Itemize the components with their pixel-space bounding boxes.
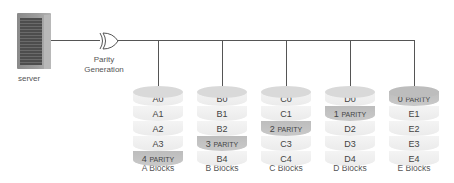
data-block: E2 (389, 121, 439, 136)
data-block: B4 (197, 151, 247, 166)
data-block: A2 (133, 121, 183, 136)
parity-number: 2 (270, 124, 275, 134)
drop-line-e (414, 40, 415, 91)
parity-number: 1 (334, 109, 339, 119)
data-block: B1 (197, 106, 247, 121)
drop-line-d (350, 40, 351, 91)
parity-label-line2: Generation (82, 65, 126, 75)
parity-tag: PARITY (149, 156, 174, 163)
drop-line-c (286, 40, 287, 91)
data-block: D4 (325, 151, 375, 166)
server-label: server (18, 74, 40, 83)
parity-label-line1: Parity (82, 55, 126, 65)
parity-block: 3 PARITY (197, 136, 247, 151)
parity-tag: PARITY (341, 111, 366, 118)
data-block: E3 (389, 136, 439, 151)
data-block: D2 (325, 121, 375, 136)
data-block: C3 (261, 136, 311, 151)
parity-tag: PARITY (277, 126, 302, 133)
disk-top (133, 86, 183, 98)
parity-number: 3 (206, 139, 211, 149)
parity-block: 1 PARITY (325, 106, 375, 121)
server-side-panel (44, 15, 51, 69)
parity-block: 2 PARITY (261, 121, 311, 136)
data-block: E1 (389, 106, 439, 121)
data-block: D3 (325, 136, 375, 151)
server-front-panel (20, 18, 42, 65)
data-block: A3 (133, 136, 183, 151)
disk-top (389, 86, 439, 98)
parity-block: 4 PARITY (133, 151, 183, 166)
server-icon (17, 13, 51, 69)
data-block: C1 (261, 106, 311, 121)
data-block: C4 (261, 151, 311, 166)
disk-top (261, 86, 311, 98)
data-block: B2 (197, 121, 247, 136)
parity-tag: PARITY (213, 141, 238, 148)
bus-line (118, 40, 414, 41)
parity-number: 4 (142, 154, 147, 164)
data-block: A1 (133, 106, 183, 121)
drop-line-a (158, 40, 159, 91)
xor-gate-icon (98, 31, 120, 51)
data-block: E4 (389, 151, 439, 166)
parity-generation-label: Parity Generation (82, 55, 126, 75)
server-to-gate-line (51, 40, 100, 41)
disk-top (197, 86, 247, 98)
disk-top (325, 86, 375, 98)
drop-line-b (222, 40, 223, 91)
